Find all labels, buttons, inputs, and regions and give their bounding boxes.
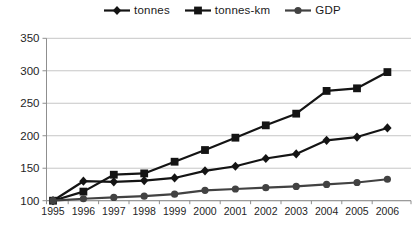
x-tick-label: 1995 — [41, 205, 65, 217]
legend-label: tonnes — [134, 5, 170, 17]
square-marker — [384, 68, 392, 76]
diamond-marker — [201, 166, 209, 175]
diamond-marker — [113, 6, 121, 15]
circle-marker — [295, 7, 302, 14]
diamond-marker — [262, 154, 270, 163]
diamond-marker — [383, 123, 391, 132]
square-marker — [323, 87, 331, 95]
y-tick-label: 150 — [20, 162, 39, 174]
diamond-marker — [292, 149, 300, 158]
diamond-marker — [231, 162, 239, 171]
x-tick-label: 2001 — [224, 205, 248, 217]
y-tick-label: 300 — [20, 65, 39, 77]
legend-label: GDP — [315, 5, 341, 17]
circle-marker — [262, 184, 269, 191]
x-tick-label: 1997 — [102, 205, 126, 217]
square-icon — [185, 5, 211, 16]
circle-marker — [201, 187, 208, 194]
series-line — [53, 72, 387, 201]
circle-marker — [110, 194, 117, 201]
circle-marker — [141, 193, 148, 200]
square-marker — [140, 170, 148, 178]
square-marker — [262, 121, 270, 129]
x-tick-label: 2000 — [193, 205, 217, 217]
square-marker — [232, 134, 240, 142]
x-tick-label: 1999 — [163, 205, 187, 217]
circle-marker — [293, 183, 300, 190]
legend-item-tonnes-km: tonnes-km — [185, 5, 271, 17]
circle-marker — [80, 195, 87, 202]
diamond-marker — [322, 136, 330, 145]
x-tick-label: 2003 — [285, 205, 309, 217]
y-tick-label: 100 — [20, 195, 39, 207]
diamond-marker — [170, 173, 178, 182]
x-tick-label: 2005 — [345, 205, 369, 217]
circle-marker — [323, 181, 330, 188]
square-marker — [171, 158, 179, 166]
circle-marker — [171, 191, 178, 198]
chart-svg: 1001502002503003501995199619971998199920… — [0, 0, 417, 233]
square-marker — [353, 84, 361, 92]
circle-marker — [384, 176, 391, 183]
x-tick-label: 2006 — [376, 205, 400, 217]
diamond-marker — [79, 177, 87, 186]
y-axis-labels: 100150200250300350 — [20, 32, 39, 206]
y-tick-label: 350 — [20, 32, 39, 44]
diamond-icon — [104, 5, 130, 16]
square-marker — [110, 171, 118, 179]
circle-marker — [232, 185, 239, 192]
chart-legend: tonnestonnes-kmGDP — [0, 5, 417, 17]
x-tick-label: 1998 — [133, 205, 157, 217]
y-tick-label: 200 — [20, 130, 39, 142]
diamond-marker — [353, 132, 361, 141]
square-marker — [201, 146, 209, 154]
x-tick-label: 1996 — [72, 205, 96, 217]
legend-item-tonnes: tonnes — [104, 5, 170, 17]
circle-marker — [49, 197, 56, 204]
square-marker — [194, 7, 202, 15]
square-marker — [292, 110, 300, 118]
gridlines — [43, 38, 412, 200]
circle-icon — [285, 5, 311, 16]
y-tick-label: 250 — [20, 97, 39, 109]
legend-label: tonnes-km — [215, 5, 271, 17]
diamond-marker — [110, 177, 118, 186]
x-tick-label: 2004 — [315, 205, 339, 217]
legend-item-GDP: GDP — [285, 5, 341, 17]
circle-marker — [353, 179, 360, 186]
x-axis-labels: 1995199619971998199920002001200220032004… — [41, 205, 399, 217]
series-GDP — [49, 176, 391, 205]
square-marker — [80, 188, 88, 196]
diamond-marker — [140, 176, 148, 185]
x-tick-label: 2002 — [254, 205, 278, 217]
line-chart: tonnestonnes-kmGDP 100150200250300350199… — [0, 0, 417, 233]
